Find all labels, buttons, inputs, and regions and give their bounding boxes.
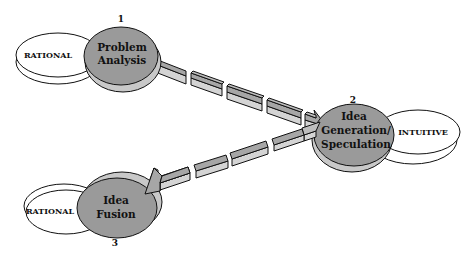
- stage-idea-generation: 2 Idea Generation/ Speculation: [312, 95, 394, 172]
- stage-title-line2: Analysis: [97, 54, 147, 66]
- stage-number-3: 3: [112, 238, 118, 248]
- stage-title-line1: Problem: [97, 41, 147, 53]
- arrow-generation-to-fusion: [145, 122, 320, 194]
- creative-process-diagram: RATIONAL 1 Problem Analysis INTUITIVE: [0, 0, 468, 258]
- stage-title-line1: Idea: [103, 194, 129, 206]
- mode-label-rational-1: RATIONAL: [24, 50, 73, 60]
- stage-title-line2: Generation/: [321, 124, 391, 136]
- stage-title-line2: Fusion: [96, 208, 136, 220]
- mode-label-rational-3: RATIONAL: [26, 206, 75, 216]
- stage-problem-analysis: 1 Problem Analysis: [84, 14, 161, 92]
- stage-number-2: 2: [350, 95, 356, 105]
- stage-number-1: 1: [118, 14, 124, 24]
- stage-title-line1: Idea: [341, 110, 367, 122]
- mode-label-intuitive: INTUITIVE: [398, 127, 448, 137]
- stage-title-line3: Speculation: [321, 138, 391, 150]
- arrow-analysis-to-generation: [150, 57, 328, 131]
